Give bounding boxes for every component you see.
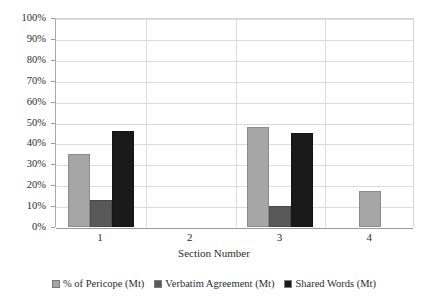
x-axis-tick-label-4: 4 [366,231,372,243]
light-gray-swatch-icon [52,280,60,288]
y-axis-tick-label: 50% [27,118,46,128]
bar-section-1-series-3 [112,131,134,227]
x-axis-tick-label-3: 3 [277,231,283,243]
plot-area [55,18,414,227]
chart-title-cropped [0,0,428,9]
y-axis-tick-label: 10% [27,201,46,211]
legend-item-label: Verbatim Agreement (Mt) [165,278,274,289]
bar-section-3-series-1 [247,127,269,227]
legend-item-1[interactable]: % of Pericope (Mt) [52,278,144,289]
bar-chart: 100%90%80%70%60%50%40%30%20%10%0% 1234 S… [0,0,428,304]
y-axis-tick-label: 0% [32,222,46,232]
y-axis-tick-label: 60% [27,97,46,107]
chart-legend: % of Pericope (Mt)Verbatim Agreement (Mt… [0,278,428,289]
legend-item-2[interactable]: Verbatim Agreement (Mt) [154,278,274,289]
bar-section-1-series-1 [68,154,90,227]
x-axis-tick-label-2: 2 [187,231,193,243]
black-swatch-icon [284,280,292,288]
legend-item-3[interactable]: Shared Words (Mt) [284,278,376,289]
medium-gray-swatch-icon [154,280,162,288]
bar-section-3-series-3 [291,133,313,227]
y-axis: 100%90%80%70%60%50%40%30%20%10%0% [0,18,51,227]
gridline [56,228,413,229]
x-axis-title: Section Number [0,247,428,259]
bar-group-section-3 [236,19,326,227]
y-axis-tick-label: 30% [27,159,46,169]
y-axis-tick-label: 80% [27,55,46,65]
y-axis-tick-mark [51,227,55,228]
bar-group-section-4 [325,19,415,227]
bar-section-3-series-2 [269,206,291,227]
bar-section-4-series-1 [359,191,381,227]
y-axis-tick-label: 70% [27,76,46,86]
y-axis-tick-label: 90% [27,34,46,44]
bar-section-1-series-2 [90,200,112,227]
x-axis-tick-label-1: 1 [97,231,103,243]
x-axis-tick-labels: 1234 [55,231,414,247]
legend-item-label: % of Pericope (Mt) [63,278,144,289]
y-axis-tick-label: 40% [27,138,46,148]
bar-group-section-1 [56,19,146,227]
bar-group-section-2 [146,19,236,227]
y-axis-tick-label: 100% [22,13,47,23]
legend-item-label: Shared Words (Mt) [295,278,376,289]
y-axis-tick-label: 20% [27,180,46,190]
